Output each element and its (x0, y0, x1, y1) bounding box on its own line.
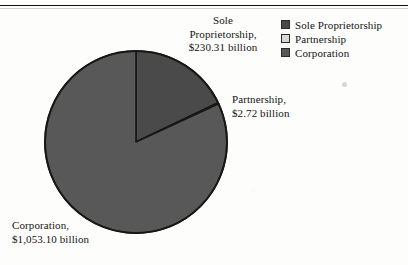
legend-swatch-icon (281, 34, 290, 43)
chart-legend: Sole Proprietorship Partnership Corporat… (281, 18, 405, 60)
legend-item-partnership: Partnership (281, 32, 405, 45)
slice-label-sole-proprietorship: Sole Proprietorship, $230.31 billion (175, 14, 271, 55)
scan-artifact-speck (342, 82, 347, 87)
pie-chart (44, 50, 228, 234)
legend-item-sole-proprietorship: Sole Proprietorship (281, 18, 405, 31)
legend-swatch-icon (281, 20, 290, 29)
legend-swatch-icon (281, 48, 290, 57)
slice-label-partnership: Partnership, $2.72 billion (232, 93, 324, 120)
top-divider-rule (0, 5, 408, 6)
legend-item-label: Corporation (295, 47, 349, 59)
legend-item-corporation: Corporation (281, 46, 405, 59)
chart-figure: Sole Proprietorship, $230.31 billion Par… (0, 0, 408, 265)
legend-item-label: Sole Proprietorship (295, 19, 382, 31)
legend-item-label: Partnership (295, 33, 346, 45)
top-divider-hairline (0, 8, 408, 9)
slice-label-corporation: Corporation, $1,053.10 billion (12, 219, 132, 246)
cropped-title-remnant (138, 0, 248, 4)
pie-chart-svg (44, 50, 228, 234)
